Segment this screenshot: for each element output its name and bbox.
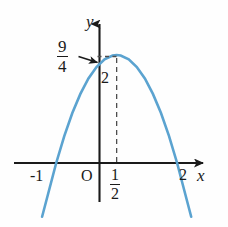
origin-label: O <box>81 168 93 184</box>
vertex-x-numerator: 1 <box>110 167 120 183</box>
vertex-height-callout-arrow <box>79 57 98 63</box>
vertex-x-denominator: 2 <box>110 186 120 202</box>
y-tick-label-two: 2 <box>101 70 109 86</box>
vertex-y-fraction-label: 9 4 <box>57 38 68 76</box>
x-tick-label-minus-one: -1 <box>30 168 43 184</box>
x-tick-label-two: 2 <box>179 167 187 183</box>
vertex-y-denominator: 4 <box>57 58 68 75</box>
parabola-figure: y x O -1 2 2 9 4 1 2 <box>0 0 228 227</box>
x-axis-label: x <box>197 167 205 184</box>
vertex-y-numerator: 9 <box>57 38 68 55</box>
y-axis-label: y <box>86 13 94 30</box>
vertex-x-fraction-label: 1 2 <box>110 167 120 203</box>
